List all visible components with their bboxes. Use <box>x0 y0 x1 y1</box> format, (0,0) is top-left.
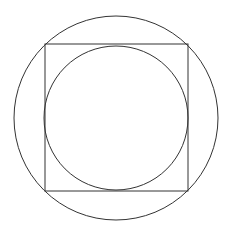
geometry-diagram <box>0 0 230 230</box>
inner-circle <box>44 46 188 190</box>
